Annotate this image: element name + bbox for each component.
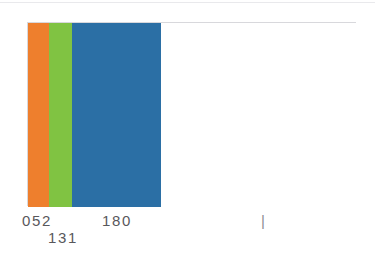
plot-area-frame [27,22,356,206]
axis-tick-mark-icon: | [261,213,265,228]
bar-segment-052[interactable] [28,23,49,207]
top-divider-rule [0,2,375,3]
chart-page: 052 180 | 131 [0,0,375,266]
bar-segment-180[interactable] [72,23,161,207]
bar-segment-131[interactable] [49,23,72,207]
axis-tick-label-180: 180 [102,213,132,228]
axis-tick-label-131: 131 [48,230,78,245]
axis-label-group: 052 180 | 131 [0,206,375,266]
bar-segment-remainder [161,23,357,207]
stacked-bar-track [28,23,357,207]
axis-tick-label-052: 052 [22,213,52,228]
